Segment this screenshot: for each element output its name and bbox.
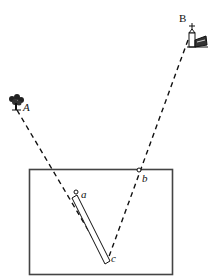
label-A: A [22,101,30,113]
alidade-ruler [72,195,110,264]
plane-table [30,170,173,275]
diagram-canvas: A B a b c [0,0,213,279]
label-B: B [179,12,186,24]
point-b-marker [137,168,141,172]
label-a: a [81,188,87,200]
label-b: b [142,172,148,184]
label-c: c [111,252,116,264]
point-a-marker [74,190,78,194]
sight-line-B [107,40,188,262]
tree-icon [9,94,24,110]
church-icon [187,23,208,47]
